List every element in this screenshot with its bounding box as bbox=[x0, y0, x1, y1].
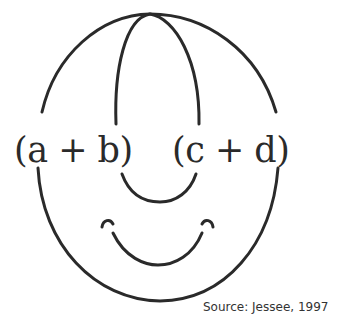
nose-loop-upper bbox=[116, 14, 199, 124]
smiley-face-figure: (a + b) (c + d) Source: Jessee, 1997 bbox=[0, 0, 340, 321]
nose-loop-lower bbox=[122, 174, 196, 202]
smile-right-dimple bbox=[202, 220, 213, 227]
smile-left-dimple bbox=[102, 220, 113, 227]
smile-mouth bbox=[113, 233, 202, 265]
face-outline-upper bbox=[42, 14, 276, 112]
face-outline-lower bbox=[38, 168, 278, 301]
left-eye-expression: (a + b) bbox=[14, 133, 133, 168]
right-eye-expression: (c + d) bbox=[172, 133, 289, 168]
source-caption: Source: Jessee, 1997 bbox=[203, 300, 328, 314]
